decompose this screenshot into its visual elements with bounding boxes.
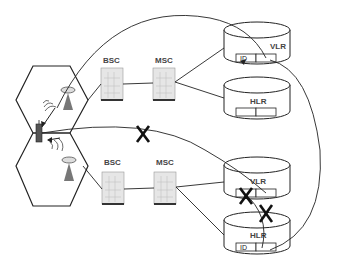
network-diagram: BSC MSC BSC MSC VLR [0,0,338,270]
msc-top: MSC [153,56,175,100]
bsc-top-label: BSC [103,56,120,65]
database-vlr-2: VLR [224,157,290,199]
msc-top-label: MSC [155,56,173,65]
mobile-phone-icon [36,120,42,142]
bsc-bottom-label: BSC [104,158,121,167]
database-hlr-2: HLR ID [224,212,290,254]
msc-bottom: MSC [154,158,176,204]
svg-text:HLR: HLR [250,97,267,106]
antenna-icon-top [61,87,75,110]
svg-text:ID: ID [240,244,247,251]
bsc-top: BSC [101,56,123,100]
cross-mark-link [137,126,149,142]
msc-bottom-label: MSC [156,158,174,167]
cell-top [16,66,88,133]
svg-text:VLR: VLR [270,42,286,51]
bsc-bottom: BSC [102,158,124,204]
database-hlr-1: HLR [224,77,290,119]
database-vlr-1: VLR ID [224,22,290,64]
antenna-icon-bottom [62,157,76,181]
